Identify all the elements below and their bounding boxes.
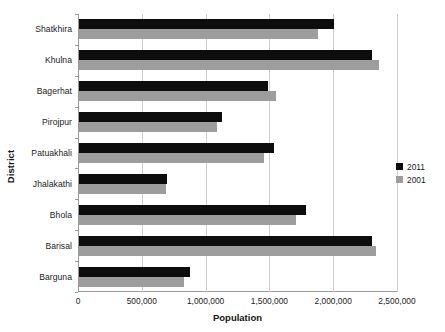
y-axis-tick xyxy=(75,107,78,108)
bar-group xyxy=(79,76,397,107)
category-label: Khulna xyxy=(16,45,76,76)
y-axis-tick xyxy=(75,199,78,200)
category-axis-labels: ShatkhiraKhulnaBagerhatPirojpurPatuakhal… xyxy=(16,14,76,292)
legend-swatch-icon xyxy=(396,176,403,183)
bar xyxy=(79,236,372,246)
bar xyxy=(79,91,276,101)
y-axis-tick xyxy=(75,230,78,231)
y-axis-tick xyxy=(75,168,78,169)
y-axis-title-text: District xyxy=(6,149,17,183)
y-axis-tick xyxy=(75,14,78,15)
x-axis-tick-label: 500,000 xyxy=(127,296,157,306)
bar xyxy=(79,29,318,39)
category-label: Patuakhali xyxy=(16,138,76,169)
x-axis-title: Population xyxy=(78,312,397,323)
y-axis-tick xyxy=(75,45,78,46)
legend-swatch-icon xyxy=(396,163,403,170)
category-label: Shatkhira xyxy=(16,14,76,45)
bar xyxy=(79,246,376,256)
bar-group xyxy=(79,230,397,261)
bar xyxy=(79,184,166,194)
population-bar-chart: District ShatkhiraKhulnaBagerhatPirojpur… xyxy=(0,0,445,332)
bar xyxy=(79,174,167,184)
bar xyxy=(79,205,306,215)
bar-group xyxy=(79,138,397,169)
bar xyxy=(79,60,379,70)
x-axis-tick-labels: 0500,0001,000,0001,500,0002,000,0002,500… xyxy=(78,296,397,310)
x-axis-tick-label: 2,500,000 xyxy=(378,296,415,306)
category-label: Jhalakathi xyxy=(16,168,76,199)
legend-entry[interactable]: 2001 xyxy=(396,173,444,186)
bar xyxy=(79,122,217,132)
bar xyxy=(79,81,268,91)
x-axis-tick-label: 1,500,000 xyxy=(251,296,288,306)
legend-label: 2011 xyxy=(407,162,425,172)
y-axis-tick xyxy=(75,138,78,139)
x-axis-tick-label: 0 xyxy=(76,296,81,306)
legend-entry[interactable]: 2011 xyxy=(396,160,444,173)
bar-group xyxy=(79,261,397,292)
x-axis-tick-label: 1,000,000 xyxy=(187,296,224,306)
bar-group xyxy=(79,14,397,45)
category-label: Bagerhat xyxy=(16,76,76,107)
bar xyxy=(79,215,296,225)
bar xyxy=(79,153,264,163)
category-label: Bhola xyxy=(16,199,76,230)
bar-groups xyxy=(79,14,397,292)
category-label: Pirojpur xyxy=(16,107,76,138)
gridline xyxy=(397,14,398,292)
bar xyxy=(79,112,222,122)
x-axis-tick-label: 2,000,000 xyxy=(315,296,352,306)
category-label: Barisal xyxy=(16,230,76,261)
bar-group xyxy=(79,199,397,230)
bar-group xyxy=(79,168,397,199)
bar xyxy=(79,50,372,60)
legend-label: 2001 xyxy=(407,175,426,185)
bar-group xyxy=(79,107,397,138)
bar-group xyxy=(79,45,397,76)
category-label: Barguna xyxy=(16,261,76,292)
bar xyxy=(79,277,184,287)
y-axis-tick xyxy=(75,261,78,262)
y-axis-tick xyxy=(75,76,78,77)
bar xyxy=(79,143,274,153)
bar xyxy=(79,19,334,29)
bar xyxy=(79,267,190,277)
legend: 20112001 xyxy=(396,160,444,186)
plot-area xyxy=(78,14,397,292)
y-axis-tick xyxy=(75,292,78,293)
